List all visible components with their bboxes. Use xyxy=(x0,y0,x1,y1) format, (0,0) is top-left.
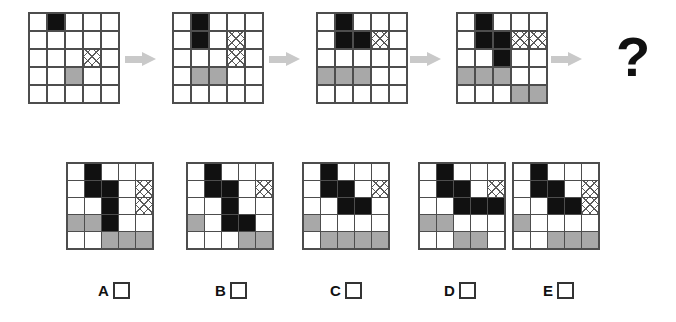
cell-r4-c4 xyxy=(102,86,118,102)
cell-r4-c4 xyxy=(488,232,504,248)
cell-r2-c1 xyxy=(437,198,453,214)
cell-r4-c2 xyxy=(548,232,564,248)
option-e-grid[interactable] xyxy=(512,162,600,250)
cell-r1-c4 xyxy=(372,181,388,197)
cell-r1-c0 xyxy=(420,181,436,197)
cell-r0-c0 xyxy=(304,164,320,180)
cell-r1-c1 xyxy=(85,181,101,197)
cell-r0-c4 xyxy=(136,164,152,180)
cell-r2-c1 xyxy=(85,198,101,214)
cell-r3-c1 xyxy=(321,215,337,231)
cell-r2-c2 xyxy=(454,198,470,214)
cell-r4-c1 xyxy=(321,232,337,248)
cell-r4-c4 xyxy=(582,232,598,248)
cell-r4-c4 xyxy=(256,232,272,248)
cell-r3-c2 xyxy=(66,68,82,84)
cell-r0-c4 xyxy=(372,164,388,180)
cell-r4-c0 xyxy=(420,232,436,248)
cell-r4-c1 xyxy=(336,86,352,102)
cell-r1-c1 xyxy=(321,181,337,197)
cell-r2-c0 xyxy=(68,198,84,214)
cell-r4-c1 xyxy=(192,86,208,102)
cell-r0-c2 xyxy=(66,14,82,30)
cell-r2-c0 xyxy=(514,198,530,214)
option-a-grid[interactable] xyxy=(66,162,154,250)
cell-r3-c4 xyxy=(582,215,598,231)
cell-r4-c1 xyxy=(205,232,221,248)
cell-r2-c2 xyxy=(102,198,118,214)
cell-r1-c4 xyxy=(488,181,504,197)
cell-r3-c1 xyxy=(336,68,352,84)
cell-r0-c1 xyxy=(321,164,337,180)
cell-r0-c4 xyxy=(488,164,504,180)
cell-r4-c2 xyxy=(222,232,238,248)
cell-r0-c0 xyxy=(514,164,530,180)
cell-r0-c2 xyxy=(494,14,510,30)
cell-r4-c4 xyxy=(390,86,406,102)
cell-r4-c3 xyxy=(355,232,371,248)
sequence-step-2-grid xyxy=(172,12,264,104)
cell-r4-c2 xyxy=(454,232,470,248)
cell-r3-c1 xyxy=(437,215,453,231)
cell-r0-c2 xyxy=(338,164,354,180)
cell-r0-c3 xyxy=(119,164,135,180)
cell-r0-c3 xyxy=(239,164,255,180)
option-e-label-group: E xyxy=(543,279,574,301)
option-b-checkbox[interactable] xyxy=(230,282,247,299)
cell-r0-c3 xyxy=(372,14,388,30)
option-a-label-group: A xyxy=(98,279,130,301)
option-c-grid[interactable] xyxy=(302,162,390,250)
cell-r4-c0 xyxy=(68,232,84,248)
cell-r3-c4 xyxy=(372,215,388,231)
cell-r3-c1 xyxy=(205,215,221,231)
cell-r2-c3 xyxy=(512,50,528,66)
arrow-right-icon-3 xyxy=(410,52,442,66)
arrow-right-icon-4 xyxy=(551,52,583,66)
option-e-checkbox[interactable] xyxy=(557,282,574,299)
cell-r0-c2 xyxy=(102,164,118,180)
cell-r1-c4 xyxy=(530,32,546,48)
cell-r1-c4 xyxy=(136,181,152,197)
option-d-label-group: D xyxy=(444,279,476,301)
cell-r0-c2 xyxy=(354,14,370,30)
cell-r1-c3 xyxy=(512,32,528,48)
cell-r0-c2 xyxy=(222,164,238,180)
cell-r0-c4 xyxy=(582,164,598,180)
cell-r3-c0 xyxy=(174,68,190,84)
cell-r1-c0 xyxy=(68,181,84,197)
cell-r3-c3 xyxy=(355,215,371,231)
cell-r4-c1 xyxy=(531,232,547,248)
cell-r1-c2 xyxy=(210,32,226,48)
cell-r0-c2 xyxy=(454,164,470,180)
cell-r0-c0 xyxy=(188,164,204,180)
cell-r0-c1 xyxy=(205,164,221,180)
cell-r1-c0 xyxy=(514,181,530,197)
cell-r1-c1 xyxy=(192,32,208,48)
cell-r4-c1 xyxy=(48,86,64,102)
option-d-grid[interactable] xyxy=(418,162,506,250)
cell-r4-c3 xyxy=(565,232,581,248)
cell-r4-c0 xyxy=(30,86,46,102)
cell-r1-c0 xyxy=(458,32,474,48)
cell-r0-c4 xyxy=(102,14,118,30)
cell-r1-c4 xyxy=(582,181,598,197)
cell-r4-c2 xyxy=(338,232,354,248)
cell-r4-c0 xyxy=(304,232,320,248)
option-b-grid[interactable] xyxy=(186,162,274,250)
cell-r0-c3 xyxy=(565,164,581,180)
cell-r1-c0 xyxy=(30,32,46,48)
cell-r3-c3 xyxy=(512,68,528,84)
option-a-checkbox[interactable] xyxy=(113,282,130,299)
cell-r1-c3 xyxy=(239,181,255,197)
cell-r3-c1 xyxy=(48,68,64,84)
cell-r1-c0 xyxy=(188,181,204,197)
cell-r2-c4 xyxy=(390,50,406,66)
option-c-checkbox[interactable] xyxy=(345,282,362,299)
option-d-checkbox[interactable] xyxy=(459,282,476,299)
cell-r4-c1 xyxy=(437,232,453,248)
cell-r3-c0 xyxy=(318,68,334,84)
cell-r2-c4 xyxy=(488,198,504,214)
cell-r0-c3 xyxy=(355,164,371,180)
cell-r2-c2 xyxy=(222,198,238,214)
cell-r1-c3 xyxy=(84,32,100,48)
